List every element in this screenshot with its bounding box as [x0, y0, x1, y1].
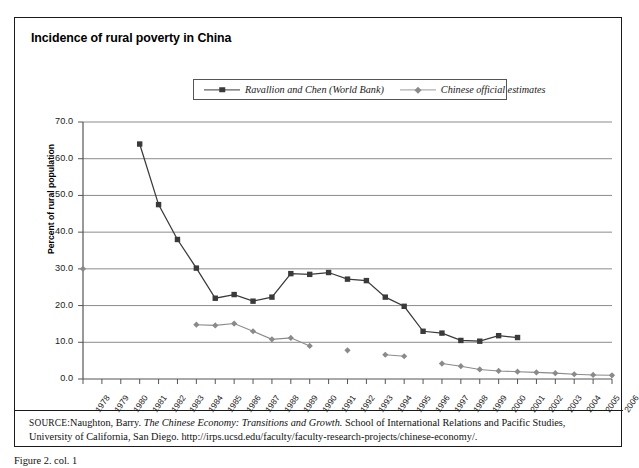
data-point-marker	[213, 296, 218, 301]
data-point-marker	[439, 330, 444, 335]
data-point-marker	[326, 270, 331, 275]
data-point-marker	[250, 328, 256, 334]
source-label: SOURCE:	[29, 418, 70, 428]
data-point-marker	[137, 141, 142, 146]
data-point-marker	[364, 278, 369, 283]
data-point-marker	[80, 266, 86, 272]
y-tick-label: 50.0	[39, 189, 73, 199]
data-point-marker	[552, 370, 558, 376]
data-point-marker	[496, 368, 502, 374]
data-point-marker	[288, 335, 294, 341]
data-point-marker	[307, 343, 313, 349]
data-point-marker	[458, 338, 463, 343]
data-point-marker	[439, 360, 445, 366]
data-point-marker	[514, 369, 520, 375]
data-point-marker	[458, 363, 464, 369]
data-point-marker	[420, 329, 425, 334]
y-tick-label: 0.0	[39, 373, 73, 383]
y-tick-label: 40.0	[39, 226, 73, 236]
series-line	[442, 364, 612, 376]
data-point-marker	[533, 369, 539, 375]
data-point-marker	[571, 371, 577, 377]
data-point-marker	[231, 292, 236, 297]
source-text-before: Naughton, Barry.	[70, 417, 144, 428]
data-point-marker	[231, 320, 237, 326]
data-point-marker	[609, 372, 615, 378]
data-point-marker	[477, 338, 482, 343]
data-point-marker	[345, 276, 350, 281]
data-point-marker	[344, 347, 350, 353]
data-point-marker	[401, 353, 407, 359]
data-point-marker	[496, 333, 501, 338]
data-point-marker	[477, 366, 483, 372]
data-point-marker	[590, 372, 596, 378]
data-point-marker	[269, 336, 275, 342]
data-point-marker	[269, 294, 274, 299]
source-title-italic: The Chinese Economy: Transitions and Gro…	[144, 417, 343, 428]
chart-plot-area: Percent of rural population 0.010.020.03…	[15, 18, 623, 448]
data-point-marker	[401, 304, 406, 309]
data-point-marker	[288, 271, 293, 276]
y-tick-label: 10.0	[39, 336, 73, 346]
data-point-marker	[250, 298, 255, 303]
data-point-marker	[175, 237, 180, 242]
series-line	[140, 144, 518, 341]
data-point-marker	[383, 294, 388, 299]
figure-caption: Figure 2. col. 1	[14, 455, 77, 468]
figure-frame: Incidence of rural poverty in China Rava…	[14, 17, 622, 447]
data-point-marker	[212, 322, 218, 328]
source-divider	[15, 410, 623, 411]
chart-svg	[15, 18, 623, 410]
data-point-marker	[307, 272, 312, 277]
y-tick-label: 60.0	[39, 153, 73, 163]
data-point-marker	[382, 352, 388, 358]
y-tick-label: 20.0	[39, 300, 73, 310]
data-point-marker	[515, 335, 520, 340]
data-point-marker	[193, 322, 199, 328]
x-tick-label: 2006	[622, 393, 639, 414]
data-point-marker	[194, 265, 199, 270]
source-note: SOURCE:Naughton, Barry. The Chinese Econ…	[29, 416, 609, 444]
y-tick-label: 30.0	[39, 263, 73, 273]
data-point-marker	[156, 202, 161, 207]
y-tick-label: 70.0	[39, 116, 73, 126]
